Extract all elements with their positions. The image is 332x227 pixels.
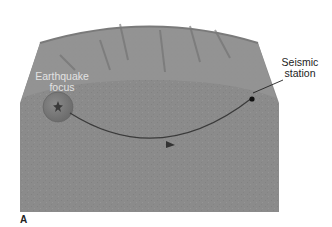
earthquake-focus-label: Earthquake focus [30,71,94,93]
focus-label-line-2: focus [30,82,94,93]
panel-label: A [20,214,27,225]
earth-cross-section-diagram [0,0,332,227]
seismic-station-label: Seismic station [272,57,328,79]
seismic-station-dot [249,96,254,101]
station-label-line-2: station [272,68,328,79]
